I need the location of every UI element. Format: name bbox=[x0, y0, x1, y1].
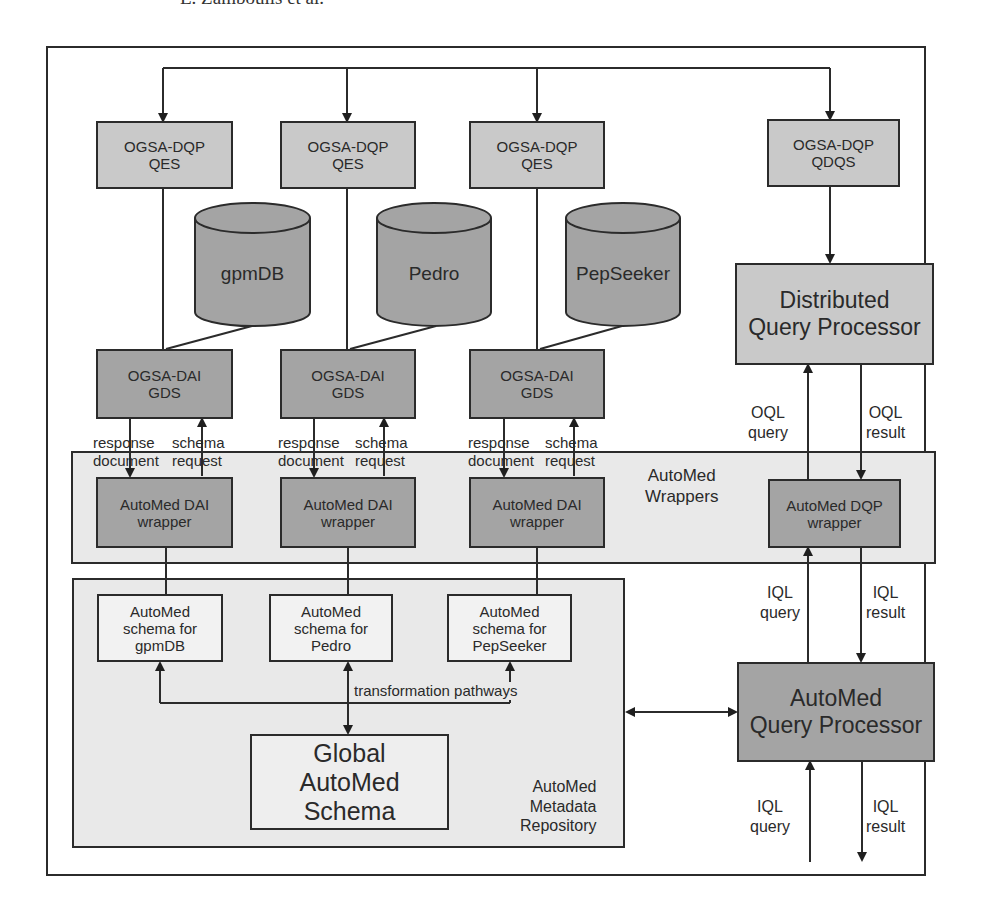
qes-box-2: OGSA-DQPQES bbox=[280, 121, 416, 189]
schema-source-name: Pedro bbox=[294, 637, 368, 654]
schema-line: AutoMed bbox=[123, 603, 197, 620]
qdqs-title: OGSA-DQP bbox=[793, 136, 874, 153]
dqp-wrapper-box: AutoMed DQPwrapper bbox=[768, 479, 901, 548]
iql-query-lower-label: IQLquery bbox=[750, 797, 790, 836]
global-schema-title: Global bbox=[252, 739, 447, 768]
schema-box-pepseeker: AutoMedschema forPepSeeker bbox=[447, 594, 572, 662]
dai-wrapper-subtitle: wrapper bbox=[303, 513, 392, 530]
qes-box-1: OGSA-DQPQES bbox=[96, 121, 233, 189]
dai-wrapper-box-3: AutoMed DAIwrapper bbox=[469, 477, 605, 548]
iql-result-upper-label: IQLresult bbox=[866, 583, 905, 622]
wrappers-region-label: AutoMedWrappers bbox=[645, 466, 718, 507]
database-label-pepseeker: PepSeeker bbox=[566, 262, 680, 285]
edge-label-schema-3: schemarequest bbox=[545, 434, 598, 471]
gds-subtitle: GDS bbox=[128, 384, 201, 401]
dqp-wrapper-title: AutoMed DQP bbox=[786, 497, 883, 514]
gds-title: OGSA-DAI bbox=[500, 367, 573, 384]
dai-wrapper-box-2: AutoMed DAIwrapper bbox=[280, 477, 416, 548]
qes-title: OGSA-DQP bbox=[124, 138, 205, 155]
qdqs-box: OGSA-DQPQDQS bbox=[767, 119, 900, 187]
edge-label-response-1: responsedocument bbox=[93, 434, 159, 471]
qes-title: OGSA-DQP bbox=[308, 138, 389, 155]
dai-wrapper-title: AutoMed DAI bbox=[120, 496, 209, 513]
edge-label-response-2: responsedocument bbox=[278, 434, 344, 471]
iql-query-upper-label: IQLquery bbox=[760, 583, 800, 622]
qdqs-subtitle: QDQS bbox=[793, 153, 874, 170]
qp-title-line2: Query Processor bbox=[750, 712, 923, 739]
schema-line: schema for bbox=[294, 620, 368, 637]
database-label-pedro: Pedro bbox=[377, 262, 491, 285]
dai-wrapper-subtitle: wrapper bbox=[492, 513, 581, 530]
oql-result-label: OQLresult bbox=[866, 403, 905, 442]
dqp-title-line1: Distributed bbox=[748, 287, 921, 314]
gds-subtitle: GDS bbox=[500, 384, 573, 401]
qp-title-line1: AutoMed bbox=[750, 685, 923, 712]
dai-wrapper-title: AutoMed DAI bbox=[303, 496, 392, 513]
schema-box-gpmdb: AutoMedschema forgpmDB bbox=[97, 594, 223, 662]
qes-subtitle: QES bbox=[308, 155, 389, 172]
global-schema-subtitle: AutoMed Schema bbox=[252, 768, 447, 826]
repository-label: AutoMedMetadataRepository bbox=[520, 777, 596, 836]
dai-wrapper-title: AutoMed DAI bbox=[492, 496, 581, 513]
edge-label-response-3: responsedocument bbox=[468, 434, 534, 471]
dqp-title-line2: Query Processor bbox=[748, 314, 921, 341]
gds-box-1: OGSA-DAIGDS bbox=[96, 349, 233, 419]
database-label-gpmdb: gpmDB bbox=[195, 262, 310, 285]
qes-subtitle: QES bbox=[124, 155, 205, 172]
schema-line: schema for bbox=[472, 620, 546, 637]
edge-label-schema-2: schemarequest bbox=[355, 434, 408, 471]
transformation-pathways-label: transformation pathways bbox=[350, 682, 521, 700]
oql-query-label: OQLquery bbox=[748, 403, 788, 442]
global-schema-box: GlobalAutoMed Schema bbox=[250, 734, 449, 830]
dqp-wrapper-subtitle: wrapper bbox=[786, 514, 883, 531]
edge-label-schema-1: schemarequest bbox=[172, 434, 225, 471]
distributed-query-processor-box: DistributedQuery Processor bbox=[735, 263, 934, 365]
schema-source-name: gpmDB bbox=[123, 637, 197, 654]
gds-box-2: OGSA-DAIGDS bbox=[280, 349, 416, 419]
gds-title: OGSA-DAI bbox=[128, 367, 201, 384]
qes-title: OGSA-DQP bbox=[497, 138, 578, 155]
gds-subtitle: GDS bbox=[311, 384, 384, 401]
qes-subtitle: QES bbox=[497, 155, 578, 172]
gds-title: OGSA-DAI bbox=[311, 367, 384, 384]
automed-query-processor-box: AutoMedQuery Processor bbox=[737, 662, 935, 762]
schema-source-name: PepSeeker bbox=[472, 637, 546, 654]
qes-box-3: OGSA-DQPQES bbox=[469, 121, 605, 189]
schema-line: AutoMed bbox=[294, 603, 368, 620]
gds-box-3: OGSA-DAIGDS bbox=[469, 349, 605, 419]
schema-box-pedro: AutoMedschema forPedro bbox=[269, 594, 393, 662]
dai-wrapper-box-1: AutoMed DAIwrapper bbox=[96, 477, 233, 548]
schema-line: AutoMed bbox=[472, 603, 546, 620]
schema-line: schema for bbox=[123, 620, 197, 637]
iql-result-lower-label: IQLresult bbox=[866, 797, 905, 836]
dai-wrapper-subtitle: wrapper bbox=[120, 513, 209, 530]
